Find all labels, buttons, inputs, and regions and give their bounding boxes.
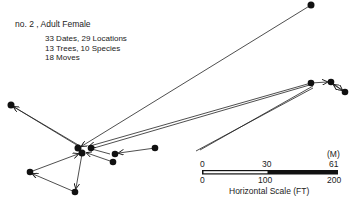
location-point <box>27 169 34 176</box>
location-points <box>8 2 349 196</box>
move-line <box>76 154 82 188</box>
location-point <box>79 150 86 157</box>
location-point <box>308 80 315 87</box>
location-point <box>308 2 315 9</box>
location-point <box>112 151 119 158</box>
location-point <box>152 145 159 152</box>
location-point <box>342 89 349 96</box>
movement-map <box>0 0 354 217</box>
scale-unit-meters: (M) <box>327 149 340 159</box>
move-line <box>119 148 155 153</box>
move-line <box>82 5 311 146</box>
stat-trees-species: 13 Trees, 10 Species <box>45 44 127 54</box>
scale-bottom-tick-0: 0 <box>200 175 205 185</box>
scale-caption: Horizontal Scale (FT) <box>229 186 309 196</box>
scale-top-tick-61: 61 <box>329 159 338 169</box>
move-line <box>90 83 311 146</box>
scale-bar <box>202 170 338 175</box>
move-line <box>94 84 313 148</box>
move-line <box>30 154 78 172</box>
stat-dates-locations: 33 Dates, 29 Locations <box>45 34 127 44</box>
move-line <box>87 153 113 162</box>
stat-moves: 18 Moves <box>45 53 127 63</box>
move-line <box>200 86 313 150</box>
scale-bottom-tick-200: 200 <box>327 175 341 185</box>
location-point <box>88 145 95 152</box>
subject-title: no. 2 , Adult Female <box>15 20 91 29</box>
scale-bottom-tick-100: 100 <box>258 175 272 185</box>
location-point <box>110 159 117 166</box>
location-point <box>8 102 15 109</box>
scale-top-tick-30: 30 <box>262 159 271 169</box>
subject-stats: 33 Dates, 29 Locations 13 Trees, 10 Spec… <box>45 34 127 63</box>
move-line <box>33 174 75 192</box>
move-line <box>14 107 80 146</box>
location-point <box>72 189 79 196</box>
scale-top-tick-0: 0 <box>200 159 205 169</box>
location-point <box>328 79 335 86</box>
